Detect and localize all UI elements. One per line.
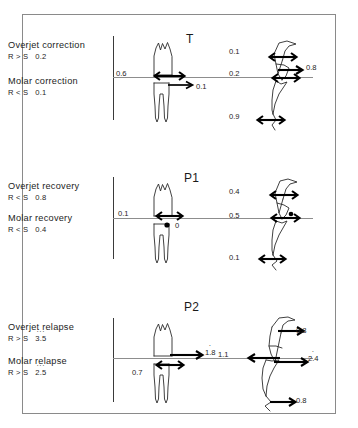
panel-T: T Overjet correction R > S 0.2 Molar cor…	[0, 14, 314, 147]
value-molar-P1-wrap: 0.4	[35, 225, 46, 234]
incisor-top-value-P2: 0.8	[296, 326, 307, 335]
value-molar-T-wrap: 0.1	[35, 88, 46, 97]
incisor-mid-right-value-P2-wrap: · 2.4	[308, 354, 319, 363]
label-block-molar-T: Molar correction R < S 0.1	[8, 76, 112, 97]
value-molar-P1: 0.4	[35, 225, 46, 234]
label-molar-relapse: Molar relapse	[8, 356, 112, 366]
comparison-molar-P1: R < S	[8, 225, 28, 234]
figure-canvas: T Overjet correction R > S 0.2 Molar cor…	[0, 0, 358, 428]
value-molar-P2: 2.5	[35, 368, 46, 377]
label-overjet-stats-P2: R > S ··· 3.5	[8, 334, 112, 343]
panel-P2: P2 Overjet relapse R > S ··· 3.5 Molar r…	[0, 290, 314, 423]
label-overjet-correction: Overjet correction	[8, 40, 112, 50]
incisor-arrows-T	[240, 32, 340, 138]
label-overjet-stats-T: R > S 0.2	[8, 52, 112, 61]
significance-dots-molar-right-P2: ·	[209, 343, 212, 348]
incisor-mid-left-value-P1: 0.5	[229, 211, 240, 220]
value-molar-P2-wrap: ··· 2.5	[35, 368, 46, 377]
incisor-top-value-P1: 0.4	[229, 187, 240, 196]
significance-dots-overjet-P2: ···	[36, 329, 45, 334]
value-overjet-P1: 0.8	[35, 193, 46, 202]
significance-dots-incisor-mid-right-P2: ·	[312, 349, 315, 354]
label-block-overjet-P1: Overjet recovery R < S 0.8	[8, 181, 112, 202]
comparison-molar-T: R < S	[8, 88, 28, 97]
label-block-molar-P2: Molar relapse R > S ··· 2.5	[8, 356, 112, 377]
panel-title-P2: P2	[184, 300, 199, 314]
incisor-mid-left-value-T: 0.2	[229, 69, 240, 78]
comparison-overjet-P2: R > S	[8, 334, 28, 343]
molar-left-value-P2: 0.7	[132, 368, 143, 377]
label-molar-stats-T: R < S 0.1	[8, 88, 112, 97]
molar-left-value-T: 0.6	[116, 69, 127, 78]
incisor-bottom-value-P1: 0.1	[229, 253, 240, 262]
significance-dots-molar-P2: ···	[36, 363, 45, 368]
molar-right-value-P2: 1.8	[205, 348, 216, 357]
label-overjet-stats-P1: R < S 0.8	[8, 193, 112, 202]
label-block-overjet-T: Overjet correction R > S 0.2	[8, 40, 112, 61]
comparison-molar-P2: R > S	[8, 368, 28, 377]
comparison-overjet-P1: R < S	[8, 193, 28, 202]
incisor-bottom-value-P2: 0.8	[296, 396, 307, 405]
comparison-overjet-T: R > S	[8, 52, 28, 61]
molar-right-value-P1: 0	[175, 221, 179, 230]
label-overjet-recovery: Overjet recovery	[8, 181, 112, 191]
incisor-mid-left-value-P2: 1.1	[218, 350, 229, 359]
label-molar-recovery: Molar recovery	[8, 213, 112, 223]
molar-right-value-P2-wrap: · 1.8	[205, 348, 216, 357]
incisor-bottom-value-T: 0.9	[229, 112, 240, 121]
value-molar-T: 0.1	[35, 88, 46, 97]
label-block-overjet-P2: Overjet relapse R > S ··· 3.5	[8, 322, 112, 343]
molar-left-value-P1: 0.1	[118, 209, 129, 218]
molar-right-value-T: 0.1	[196, 82, 207, 91]
incisor-mid-right-value-T: 0.8	[306, 63, 317, 72]
label-molar-stats-P2: R > S ··· 2.5	[8, 368, 112, 377]
label-overjet-relapse: Overjet relapse	[8, 322, 112, 332]
label-molar-correction: Molar correction	[8, 76, 112, 86]
label-molar-stats-P1: R < S 0.4	[8, 225, 112, 234]
value-overjet-P2-wrap: ··· 3.5	[35, 334, 46, 343]
label-block-molar-P1: Molar recovery R < S 0.4	[8, 213, 112, 234]
incisor-arrows-P1	[240, 169, 340, 279]
panel-P1: P1 Overjet recovery R < S 0.8 Molar reco…	[0, 155, 314, 288]
incisor-arrows-P2	[238, 312, 348, 420]
value-overjet-T: 0.2	[35, 52, 46, 61]
value-overjet-P1-wrap: 0.8	[35, 193, 46, 202]
value-overjet-T-wrap: 0.2	[35, 52, 46, 61]
value-overjet-P2: 3.5	[35, 334, 46, 343]
incisor-mid-right-value-P2: 2.4	[308, 354, 319, 363]
incisor-top-value-T: 0.1	[229, 47, 240, 56]
